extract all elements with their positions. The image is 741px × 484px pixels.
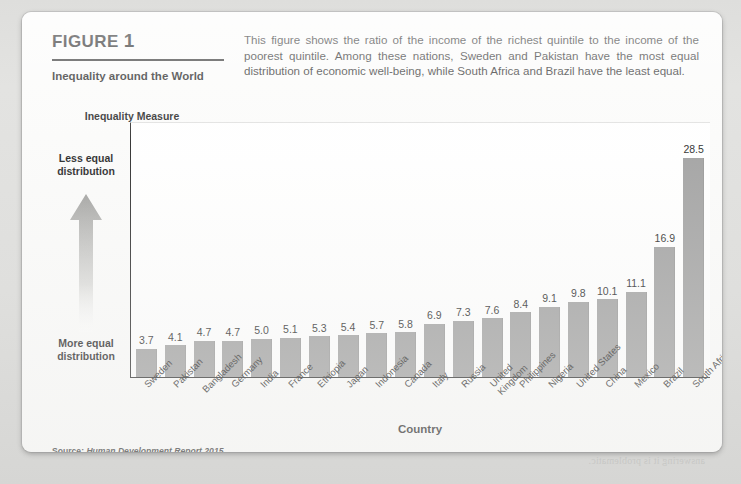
x-axis-title: Country bbox=[130, 423, 710, 435]
up-arrow-icon bbox=[68, 194, 104, 332]
bar bbox=[683, 158, 704, 377]
figure-title-divider bbox=[52, 59, 224, 61]
bar-value-label: 4.7 bbox=[191, 326, 218, 338]
figure-title: FIGURE 1 bbox=[52, 30, 227, 52]
bar-value-label: 9.8 bbox=[565, 287, 592, 299]
bar-value-label: 5.4 bbox=[335, 321, 362, 333]
plot-top-edge bbox=[130, 122, 710, 123]
figure-header: FIGURE 1 Inequality around the World bbox=[52, 30, 227, 82]
bar-value-label: 4.7 bbox=[219, 326, 246, 338]
bar-series: 3.74.14.74.75.05.15.35.45.75.86.97.37.68… bbox=[132, 124, 708, 377]
bar-value-label: 4.1 bbox=[162, 331, 189, 343]
bar bbox=[626, 292, 647, 377]
bar-group: 28.5 bbox=[680, 143, 707, 377]
bar-value-label: 7.6 bbox=[479, 304, 506, 316]
bar-group: 11.1 bbox=[623, 277, 650, 377]
bar-value-label: 5.3 bbox=[306, 322, 333, 334]
bar bbox=[654, 247, 675, 377]
bar-value-label: 5.0 bbox=[248, 324, 275, 336]
bar-value-label: 11.1 bbox=[623, 277, 650, 289]
bar-value-label: 7.3 bbox=[450, 306, 477, 318]
bar-value-label: 6.9 bbox=[421, 309, 448, 321]
more-equal-label: More equal distribution bbox=[40, 337, 132, 362]
bar-value-label: 9.1 bbox=[536, 292, 563, 304]
bar-value-label: 5.7 bbox=[363, 319, 390, 331]
bar-value-label: 5.1 bbox=[277, 323, 304, 335]
bar-value-label: 8.4 bbox=[507, 298, 534, 310]
x-axis-tick-labels: SwedenPakistanBangladeshGermanyIndiaFran… bbox=[132, 380, 708, 420]
bar-value-label: 3.7 bbox=[133, 334, 160, 346]
bar-value-label: 5.8 bbox=[392, 318, 419, 330]
bar-value-label: 10.1 bbox=[594, 285, 621, 297]
figure-label: FIGURE bbox=[52, 32, 119, 51]
less-equal-label: Less equal distribution bbox=[40, 152, 132, 177]
source-text: Human Development Report 2015. bbox=[86, 446, 225, 452]
bar-value-label: 16.9 bbox=[651, 232, 678, 244]
bar-group: 16.9 bbox=[651, 232, 678, 377]
source-note: Source: Human Development Report 2015. bbox=[52, 446, 226, 452]
figure-number: 1 bbox=[124, 30, 135, 51]
bar-value-label: 28.5 bbox=[680, 143, 707, 155]
source-label: Source: bbox=[52, 446, 84, 452]
figure-card: FIGURE 1 Inequality around the World Thi… bbox=[22, 12, 722, 452]
figure-caption: This figure shows the ratio of the incom… bbox=[244, 32, 699, 79]
figure-subtitle: Inequality around the World bbox=[52, 70, 227, 82]
y-axis-title: Inequality Measure bbox=[84, 110, 180, 123]
